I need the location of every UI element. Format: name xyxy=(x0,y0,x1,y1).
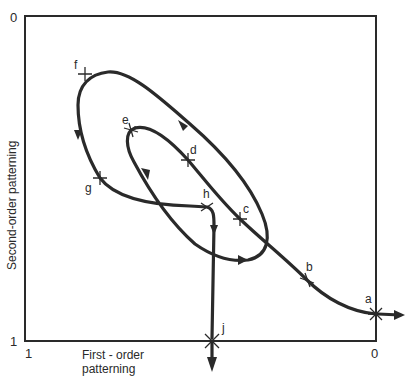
exit-arrow-icon xyxy=(207,357,217,372)
point-label-e: e xyxy=(122,114,129,126)
direction-arrows xyxy=(74,120,405,372)
arrow-down-icon xyxy=(210,225,218,235)
x-axis-left-tick: 1 xyxy=(25,347,32,360)
x-axis-title: First - order patterning xyxy=(82,348,144,376)
arrow-right-icon xyxy=(238,255,248,265)
y-axis-bottom-tick: 1 xyxy=(10,335,17,348)
point-label-f: f xyxy=(74,59,77,71)
point-label-a: a xyxy=(365,293,372,305)
point-label-b: b xyxy=(306,261,313,273)
x-axis-title-line1: First - order xyxy=(82,348,144,362)
x-axis-title-line2: patterning xyxy=(82,362,144,376)
y-axis-top-tick: 0 xyxy=(10,11,17,24)
point-label-g: g xyxy=(85,182,92,194)
point-markers xyxy=(78,67,384,348)
point-label-d: d xyxy=(190,144,197,156)
entry-arrow-icon xyxy=(394,310,405,320)
point-label-c: c xyxy=(243,203,249,215)
x-axis-right-tick: 0 xyxy=(371,347,378,360)
y-axis-title: Second-order patterning xyxy=(5,141,19,270)
point-label-j: j xyxy=(222,322,225,334)
point-label-h: h xyxy=(203,188,210,200)
